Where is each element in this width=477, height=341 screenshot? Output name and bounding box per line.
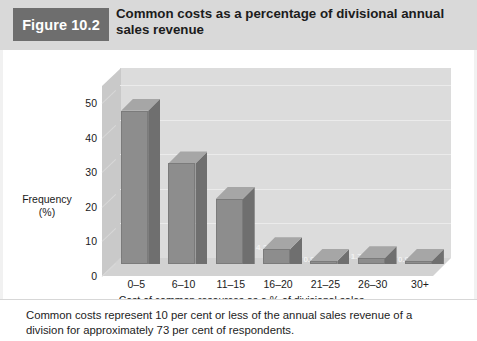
figure-title: Common costs as a percentage of division… xyxy=(116,6,461,37)
figure-number-label: Figure 10.2 xyxy=(22,17,100,33)
y-axis-tick-label: 30 xyxy=(71,166,97,178)
y-axis-tick-label: 50 xyxy=(71,97,97,109)
x-axis-tick-label: 0–5 xyxy=(113,278,160,290)
bar-side-face xyxy=(195,151,207,264)
bar-front-face xyxy=(310,261,337,264)
figure-header-band: Figure 10.2 Common costs as a percentage… xyxy=(0,0,477,50)
bar[interactable]: 0.9 xyxy=(405,249,432,264)
bar[interactable]: 29.1 xyxy=(168,151,195,264)
bar[interactable]: 44.4 xyxy=(121,99,148,264)
plot-area: 44.429.118.84.30.91.70.9 xyxy=(102,68,451,276)
figure-number-box: Figure 10.2 xyxy=(13,8,109,41)
y-axis-tick-label: 0 xyxy=(71,270,97,282)
bar-side-face xyxy=(148,99,160,264)
bar-front-face xyxy=(358,258,385,264)
y-axis-tick-label: 20 xyxy=(71,201,97,213)
gridline xyxy=(120,85,451,86)
bar-side-face xyxy=(243,187,255,264)
bar-front-face xyxy=(121,111,148,264)
figure-caption: Common costs represent 10 per cent or le… xyxy=(26,308,450,338)
bar-front-face xyxy=(168,163,195,264)
bar-front-face xyxy=(216,199,243,264)
x-axis-tick-label: 30+ xyxy=(396,278,443,290)
figure-panel: Figure 10.2 Common costs as a percentage… xyxy=(0,0,477,341)
bar-front-face xyxy=(263,249,290,264)
bar-front-face xyxy=(405,261,432,264)
x-axis-tick-label: 21–25 xyxy=(302,278,349,290)
y-axis-ticks: 01020304050 xyxy=(69,68,97,276)
bar[interactable]: 18.8 xyxy=(216,187,243,264)
x-axis-tick-label: 26–30 xyxy=(349,278,396,290)
gridline xyxy=(120,120,451,121)
figure-caption-band: Common costs represent 10 per cent or le… xyxy=(0,299,477,341)
x-axis-tick-label: 11–15 xyxy=(207,278,254,290)
y-axis-tick-label: 40 xyxy=(71,132,97,144)
bar[interactable]: 4.3 xyxy=(263,237,290,264)
bar[interactable]: 1.7 xyxy=(358,246,385,264)
y-axis-title: Frequency (%) xyxy=(21,193,73,218)
y-axis-tick-label: 10 xyxy=(71,235,97,247)
bar[interactable]: 0.9 xyxy=(310,249,337,264)
x-axis-tick-label: 16–20 xyxy=(254,278,301,290)
y-axis-title-line1: Frequency xyxy=(21,193,73,206)
y-axis-title-line2: (%) xyxy=(21,206,73,219)
x-axis-ticks: 0–56–1011–1516–2021–2526–3030+ xyxy=(102,278,451,292)
x-axis-tick-label: 6–10 xyxy=(160,278,207,290)
chart-body: Frequency (%) 01020304050 44.429.118.84.… xyxy=(0,50,477,299)
